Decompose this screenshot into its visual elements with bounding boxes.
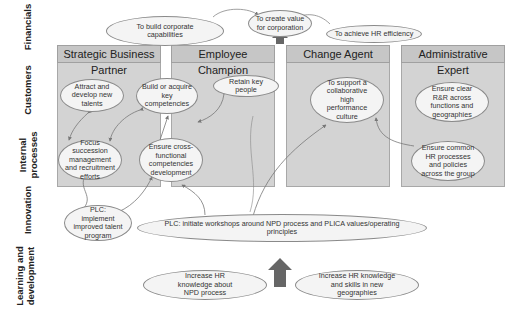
process-focus-succession: Focus succession management and recruitm…: [58, 140, 122, 180]
goal-hr-efficiency: To achieve HR efficiency: [326, 25, 422, 43]
column-header-strategic-business-partner: Strategic Business Partner: [57, 45, 161, 63]
objective-support-culture: To support a collaborative high performa…: [310, 77, 384, 123]
row-label-financials: Financials: [23, 0, 33, 57]
learning-geographies-knowledge: Increase HR knowledge and skills in new …: [295, 270, 419, 300]
column-header-change-agent: Change Agent: [286, 45, 390, 63]
process-common-hr: Ensure common HR processes and policies …: [411, 141, 485, 181]
row-label-innovation: Innovation: [23, 180, 33, 240]
objective-build-competencies: Build or acquire key competencies: [136, 78, 198, 114]
column-header-employee-champion: Employee Champion: [171, 45, 275, 63]
row-label-internal-processes: Internal processes: [17, 130, 39, 180]
goal-create-value: To create value for corporation: [248, 10, 312, 37]
objective-retain-people: Retain key people: [213, 75, 279, 97]
row-label-customers: Customers: [23, 60, 33, 120]
goal-build-capabilities: To build corporate capabilities: [106, 16, 224, 46]
process-cross-functional: Ensure cross-functional competencies dev…: [139, 138, 203, 182]
learning-npd-knowledge: Increase HR knowledge about NPD process: [143, 270, 267, 300]
objective-attract-talents: Attract and develop new talents: [60, 79, 124, 112]
big-arrow-bottom: [268, 258, 292, 287]
arrow-cross-build: [160, 116, 168, 140]
initiative-plc-talent: PLC: implement improved talent program: [64, 205, 132, 241]
row-label-learning-development: Learning and development: [14, 241, 36, 311]
initiative-plc-workshops: PLC: initiate workshops around NPD proce…: [137, 214, 427, 242]
row-label-learning-development-text: Learning and development: [14, 246, 36, 306]
row-label-internal-processes-text: Internal processes: [17, 132, 39, 179]
objective-clear-rr: Ensure clear R&R across functions and ge…: [415, 82, 489, 122]
arrow-workshops-cross: [182, 185, 205, 215]
column-header-administrative-expert: Administrative Expert: [401, 45, 505, 63]
